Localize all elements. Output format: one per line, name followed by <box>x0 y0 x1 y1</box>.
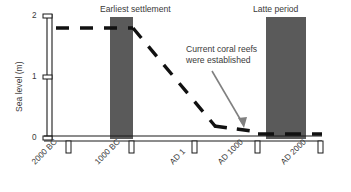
bar-earliest-settlement <box>110 17 133 139</box>
chart-figure: Sea level (m) 2 1 0 2000 BC 1000 BC AD 1… <box>0 0 351 192</box>
y-tick-label-2: 2 <box>32 11 37 20</box>
coral-reef-arrow <box>212 71 247 128</box>
annotation-earliest-settlement: Earliest settlement <box>100 4 171 14</box>
annotation-latte-italic: Latte <box>253 4 272 14</box>
y-axis <box>43 14 52 140</box>
annotation-coral-line1: Current coral reefs <box>186 44 257 54</box>
bar-latte-period <box>266 17 306 139</box>
annotation-coral-line2: were established <box>186 55 251 65</box>
annotation-latte-rest: period <box>272 4 298 14</box>
y-tick-label-1: 1 <box>32 72 37 81</box>
y-tick-label-0: 0 <box>32 133 37 142</box>
y-axis-title: Sea level (m) <box>14 61 24 112</box>
annotation-latte-period: Latte period <box>253 4 298 14</box>
